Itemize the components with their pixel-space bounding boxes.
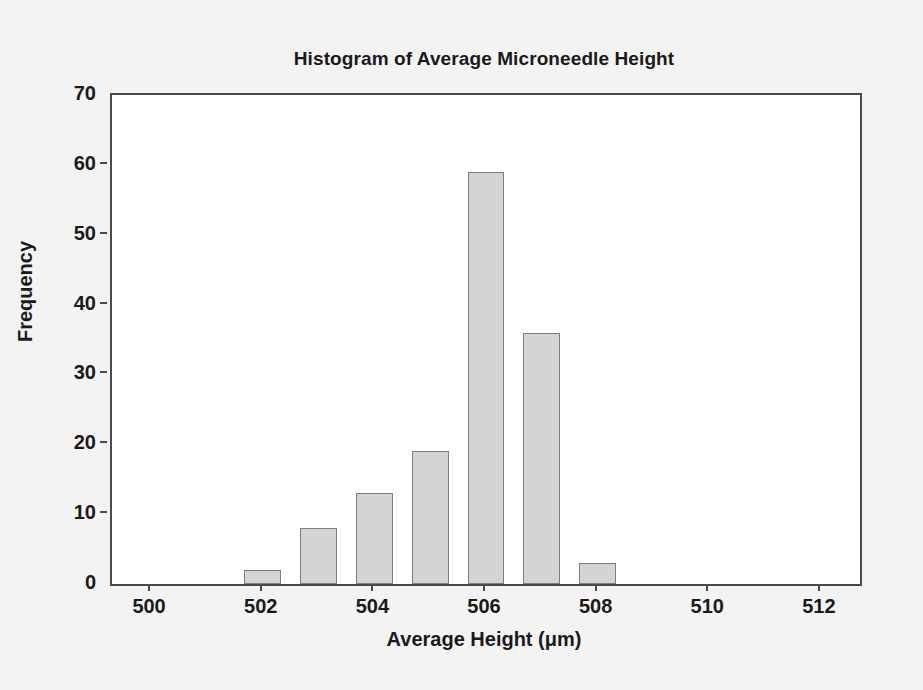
y-tick-label: 50	[32, 223, 96, 243]
x-tick-mark	[260, 584, 262, 591]
x-axis-ticks: 500502504506508510512	[110, 584, 858, 624]
y-tick-mark	[100, 371, 107, 373]
y-tick-label: 10	[32, 502, 96, 522]
histogram-bar	[412, 451, 449, 584]
y-tick-label: 20	[32, 432, 96, 452]
x-tick-mark	[706, 584, 708, 591]
x-tick-mark	[818, 584, 820, 591]
x-tick-label: 504	[327, 596, 417, 616]
y-axis-ticks: 010203040506070	[0, 93, 96, 582]
y-tick-label: 70	[32, 83, 96, 103]
y-tick-mark	[100, 441, 107, 443]
y-tick-mark	[100, 162, 107, 164]
histogram-bar	[300, 528, 337, 584]
x-tick-label: 512	[774, 596, 864, 616]
x-tick-mark	[148, 584, 150, 591]
bars-layer	[112, 95, 860, 584]
x-tick-label: 500	[104, 596, 194, 616]
y-tick-label: 30	[32, 362, 96, 382]
x-tick-label: 502	[216, 596, 306, 616]
x-tick-mark	[483, 584, 485, 591]
x-tick-mark	[371, 584, 373, 591]
y-tick-label: 0	[32, 572, 96, 592]
y-tick-label: 60	[32, 153, 96, 173]
x-tick-label: 508	[551, 596, 641, 616]
chart-title: Histogram of Average Microneedle Height	[110, 48, 858, 70]
histogram-bar	[579, 563, 616, 584]
x-tick-label: 506	[439, 596, 529, 616]
y-tick-mark	[100, 232, 107, 234]
histogram-bar	[468, 172, 505, 584]
histogram-bar	[356, 493, 393, 584]
x-tick-label: 510	[662, 596, 752, 616]
histogram-figure: Histogram of Average Microneedle Height …	[0, 0, 923, 690]
plot-area	[110, 93, 862, 586]
histogram-bar	[244, 570, 281, 584]
x-axis-title: Average Height (μm)	[110, 628, 858, 651]
y-tick-mark	[100, 302, 107, 304]
histogram-bar	[523, 333, 560, 584]
y-tick-label: 40	[32, 293, 96, 313]
y-tick-mark	[100, 511, 107, 513]
x-tick-mark	[595, 584, 597, 591]
